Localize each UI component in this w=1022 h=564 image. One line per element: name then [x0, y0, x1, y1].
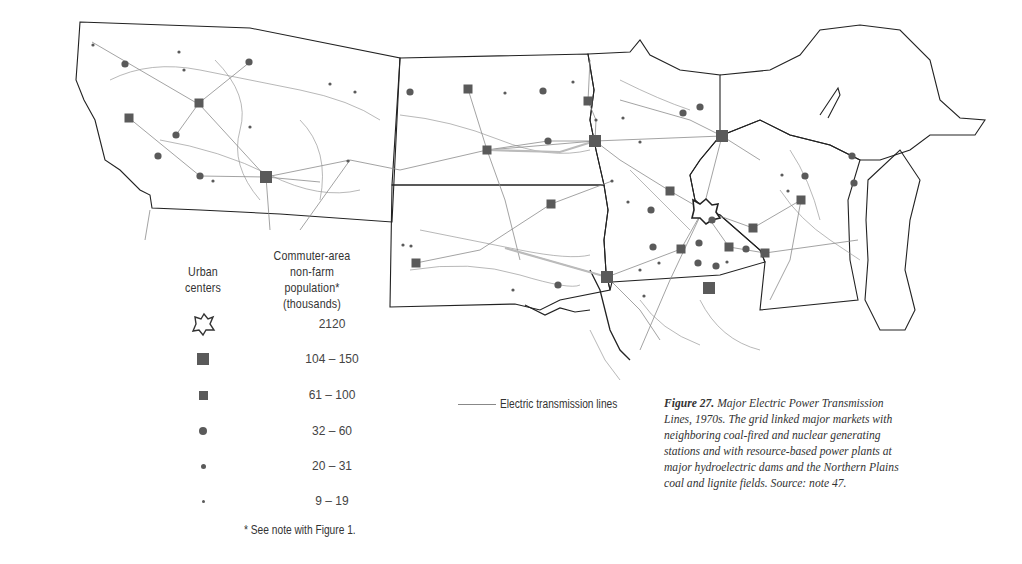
large-dot-urban-center: [712, 262, 719, 269]
legend-label-small-square: 61 – 100: [272, 385, 392, 405]
small-dot-urban-center: [182, 68, 185, 71]
large-dot-urban-center: [154, 152, 161, 159]
transmission-line-legend: Electric transmission lines: [458, 396, 638, 412]
small-square-urban-center: [749, 224, 758, 233]
large-dot-urban-center: [406, 88, 413, 95]
small-dot-urban-center: [248, 125, 251, 128]
large-dot-urban-center: [694, 259, 701, 266]
small-dot-urban-center: [177, 50, 180, 53]
small-square-urban-center: [464, 85, 473, 94]
large-dot-urban-center: [848, 152, 855, 159]
small-dot-icon: [180, 491, 226, 511]
large-dot-urban-center: [679, 109, 686, 116]
small-dot-urban-center: [571, 80, 574, 83]
small-dot-urban-center: [780, 173, 783, 176]
large-dot-urban-center: [245, 58, 252, 65]
small-square-urban-center: [584, 97, 593, 106]
small-dot-urban-center: [725, 260, 728, 263]
small-dot-urban-center: [626, 200, 629, 203]
large-dot-urban-center: [196, 172, 203, 179]
small-dot-urban-center: [328, 82, 331, 85]
large-dot-urban-center: [801, 172, 808, 179]
large-dot-urban-center: [696, 103, 703, 110]
small-square-urban-center: [412, 259, 421, 268]
medium-dot-icon: [180, 456, 226, 476]
legend-label-medium-dot: 20 – 31: [272, 456, 392, 476]
small-dot-urban-center: [638, 268, 641, 271]
large-dot-icon: [180, 421, 226, 441]
large-square-icon: [180, 349, 226, 369]
large-square-urban-center: [716, 130, 728, 142]
small-square-urban-center: [547, 200, 556, 209]
small-square-icon: [180, 385, 226, 405]
major-lines: [487, 141, 607, 277]
small-dot-urban-center: [346, 159, 349, 162]
small-square-urban-center: [725, 243, 734, 252]
small-dot-urban-center: [594, 118, 597, 121]
figure-number: Figure 27.: [664, 397, 714, 410]
large-square-urban-center: [589, 135, 601, 147]
large-dot-urban-center: [554, 281, 561, 288]
large-dot-urban-center: [708, 216, 715, 223]
legend-value-header-line3: (thousands): [263, 296, 361, 312]
transmission-lines: [92, 42, 858, 350]
legend-row-small-square: 61 – 100: [180, 385, 380, 405]
small-square-urban-center: [797, 196, 806, 205]
legend-value-header-line2: non-farm population*: [263, 264, 361, 296]
small-dot-urban-center: [786, 189, 789, 192]
large-square-urban-center: [260, 171, 272, 183]
legend-row-large-square: 104 – 150: [180, 349, 380, 369]
small-square-urban-center: [483, 146, 492, 155]
small-dot-urban-center: [211, 179, 214, 182]
small-dot-urban-center: [503, 91, 506, 94]
figure-caption-text: Major Electric Power Transmission Lines,…: [664, 397, 899, 490]
large-dot-urban-center: [649, 243, 656, 250]
large-square-urban-center: [601, 271, 613, 283]
legend-symbol-header: Urban centers: [184, 264, 222, 296]
legend-label-small-dot: 9 – 19: [272, 491, 392, 511]
large-dot-urban-center: [172, 131, 179, 138]
large-dot-urban-center: [695, 239, 702, 246]
large-dot-urban-center: [544, 137, 551, 144]
legend-footnote: * See note with Figure 1.: [244, 523, 356, 537]
small-dot-urban-center: [657, 261, 660, 264]
legend-value-header: Commuter-area non-farm population* (thou…: [263, 248, 361, 312]
urban-centers: [91, 43, 857, 297]
small-dot-urban-center: [409, 244, 412, 247]
large-dot-urban-center: [742, 245, 749, 252]
small-square-urban-center: [761, 249, 770, 258]
legend-row-metro: 2120: [180, 314, 380, 334]
transmission-line-label: Electric transmission lines: [500, 397, 617, 411]
legend-row-small-dot: 9 – 19: [180, 491, 380, 511]
transmission-line-swatch: [458, 404, 496, 405]
large-dot-urban-center: [121, 60, 128, 67]
metro-outline-icon: [180, 314, 226, 334]
small-dot-urban-center: [353, 90, 356, 93]
small-square-urban-center: [125, 114, 134, 123]
small-dot-urban-center: [511, 288, 514, 291]
large-square-urban-center: [703, 282, 715, 294]
legend-row-medium-dot: 20 – 31: [180, 456, 380, 476]
large-dot-urban-center: [539, 87, 546, 94]
legend-label-large-square: 104 – 150: [272, 349, 392, 369]
small-dot-urban-center: [638, 140, 641, 143]
large-dot-urban-center: [647, 206, 654, 213]
small-square-urban-center: [195, 99, 204, 108]
legend-label-metro: 2120: [272, 314, 392, 334]
small-dot-urban-center: [91, 43, 94, 46]
legend-row-large-dot: 32 – 60: [180, 421, 380, 441]
small-square-urban-center: [666, 187, 675, 196]
small-dot-urban-center: [642, 294, 645, 297]
legend-label-large-dot: 32 – 60: [272, 421, 392, 441]
legend-value-header-line1: Commuter-area: [263, 248, 361, 264]
figure-caption: Figure 27. Major Electric Power Transmis…: [664, 396, 904, 492]
small-square-urban-center: [677, 245, 686, 254]
small-dot-urban-center: [621, 116, 624, 119]
metro-outline-msp: [692, 199, 720, 224]
small-dot-urban-center: [401, 243, 404, 246]
legend-symbol-header-text: Urban centers: [184, 264, 222, 296]
large-dot-urban-center: [850, 179, 857, 186]
small-dot-urban-center: [610, 179, 613, 182]
